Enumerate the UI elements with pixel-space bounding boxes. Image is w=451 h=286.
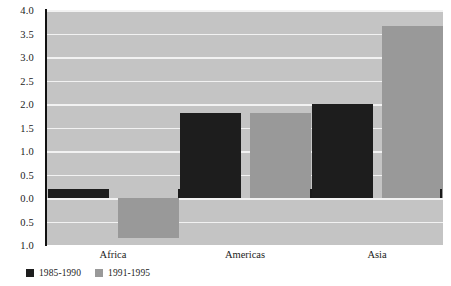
bar-chart-figure: 4.03.53.02.52.01.51.00.50.00.51.0 Africa… <box>0 0 451 286</box>
bar-africa-1985-1990 <box>48 189 109 198</box>
bar-asia-1991-1995 <box>382 26 443 198</box>
x-axis-category-labels: AfricaAmericasAsia <box>47 249 443 265</box>
y-axis-tick-label: 4.0 <box>20 5 34 16</box>
y-axis-tick-label: 3.0 <box>20 52 34 63</box>
gridline <box>47 222 443 224</box>
y-axis-tick-label: 3.5 <box>20 28 34 39</box>
y-axis-tick-label: 1.0 <box>20 146 34 157</box>
category-label-africa: Africa <box>100 249 127 260</box>
legend-label: 1985-1990 <box>39 268 81 278</box>
y-axis-tick-label: 0.5 <box>20 169 34 180</box>
plot-area <box>47 10 443 245</box>
bar-americas-1991-1995 <box>250 113 311 198</box>
y-axis-tick-label: 0.0 <box>20 193 34 204</box>
x-axis-tick <box>310 189 312 198</box>
category-label-americas: Americas <box>225 249 265 260</box>
y-axis: 4.03.53.02.52.01.51.00.50.00.51.0 <box>0 10 44 245</box>
y-axis-tick-label: 0.5 <box>20 216 34 227</box>
y-axis-tick-label: 1.0 <box>20 240 34 251</box>
y-axis-tick-label: 2.0 <box>20 99 34 110</box>
gridline <box>47 10 443 12</box>
category-label-asia: Asia <box>367 249 386 260</box>
x-axis-tick <box>178 189 180 198</box>
legend-entry-1985-1990: 1985-1990 <box>26 268 81 278</box>
legend-swatch-icon <box>95 269 103 277</box>
x-axis-tick <box>440 189 442 198</box>
bar-africa-1991-1995 <box>118 198 179 238</box>
gridline <box>47 198 443 200</box>
legend-swatch-icon <box>26 269 34 277</box>
chart-legend: 1985-19901991-1995 <box>26 268 150 278</box>
y-axis-tick-label: 2.5 <box>20 75 34 86</box>
legend-entry-1991-1995: 1991-1995 <box>95 268 150 278</box>
bar-americas-1985-1990 <box>180 113 241 198</box>
legend-label: 1991-1995 <box>108 268 150 278</box>
bar-asia-1985-1990 <box>312 104 373 198</box>
y-axis-tick-label: 1.5 <box>20 122 34 133</box>
